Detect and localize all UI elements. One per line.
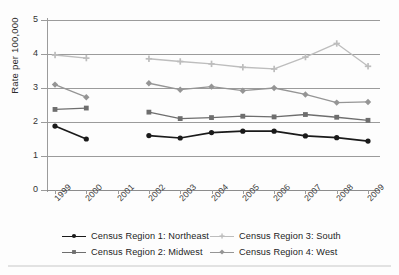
- legend-marker-circle-icon: [62, 231, 86, 241]
- legend-item-2[interactable]: Census Region 3: South: [210, 231, 362, 241]
- y-tick-0: [41, 190, 47, 191]
- legend-marker-square-icon: [62, 247, 86, 257]
- y-tick-3: [41, 88, 47, 89]
- y-tick-label-4: 4: [18, 49, 38, 58]
- gridline-1: [47, 156, 380, 157]
- y-tick-4: [41, 54, 47, 55]
- y-tick-1: [41, 156, 47, 157]
- y-tick-label-5: 5: [18, 15, 38, 24]
- gridline-2: [47, 122, 380, 123]
- legend-item-3[interactable]: Census Region 2: Midwest: [62, 247, 210, 257]
- bottom-divider: [8, 265, 391, 267]
- y-tick-5: [41, 20, 47, 21]
- plot-area: [47, 20, 380, 190]
- y-tick-label-3: 3: [18, 83, 38, 92]
- legend-label: Census Region 2: Midwest: [91, 247, 203, 257]
- chart-legend: Census Region 1: NortheastCensus Region …: [62, 228, 362, 260]
- y-tick-label-0: 0: [18, 185, 38, 194]
- legend-label: Census Region 4: West: [239, 247, 337, 257]
- y-tick-label-2: 2: [18, 117, 38, 126]
- legend-item-1[interactable]: Census Region 1: Northeast: [62, 231, 210, 241]
- y-tick-label-1: 1: [18, 151, 38, 160]
- gridline-5: [47, 20, 380, 21]
- legend-label: Census Region 3: South: [239, 231, 341, 241]
- gridline-4: [47, 54, 380, 55]
- y-tick-2: [41, 122, 47, 123]
- legend-marker-plus-icon: [210, 231, 234, 241]
- legend-marker-diamond-icon: [210, 247, 234, 257]
- gridline-3: [47, 88, 380, 89]
- legend-item-4[interactable]: Census Region 4: West: [210, 247, 362, 257]
- legend-label: Census Region 1: Northeast: [91, 231, 209, 241]
- chart-figure: Rate per 100,000 012345 1999200020012002…: [0, 0, 399, 275]
